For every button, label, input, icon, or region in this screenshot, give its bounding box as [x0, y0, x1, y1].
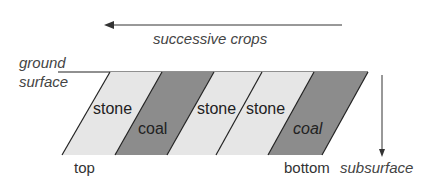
top-label: top [74, 160, 95, 175]
surface-label: surface [19, 74, 68, 89]
subsurface-arrow [379, 75, 385, 157]
bottom-label: bottom [284, 160, 330, 175]
diagram-canvas: successive crops ground surface stone co… [0, 0, 437, 194]
band-label-coal-2: coal [293, 121, 322, 137]
subsurface-label: subsurface [340, 160, 413, 175]
successive-crops-arrow [104, 21, 342, 29]
ground-label: ground [19, 55, 66, 70]
band-label-stone-3: stone [246, 101, 285, 117]
band-label-coal-1: coal [138, 121, 167, 137]
band-label-stone-2: stone [197, 101, 236, 117]
band-label-stone-1: stone [93, 101, 132, 117]
successive-crops-label: successive crops [153, 31, 267, 46]
